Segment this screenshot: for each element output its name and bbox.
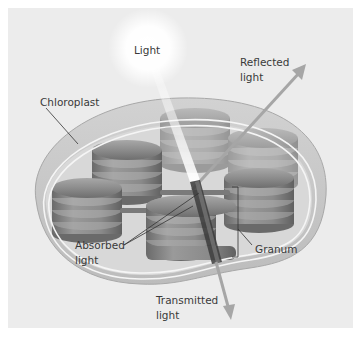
label-reflected-light: Reflected light xyxy=(240,55,289,85)
transmitted-line1: Transmitted xyxy=(156,293,218,308)
absorbed-line2: light xyxy=(75,253,125,268)
label-transmitted-light: Transmitted light xyxy=(156,293,218,323)
label-light: Light xyxy=(134,43,160,58)
granum-label-text: Granum xyxy=(255,242,297,257)
label-granum: Granum xyxy=(255,242,297,257)
label-absorbed-light: Absorbed light xyxy=(75,238,125,268)
label-chloroplast: Chloroplast xyxy=(40,95,99,110)
chloroplast-diagram xyxy=(0,0,362,339)
chloroplast-label-text: Chloroplast xyxy=(40,95,99,110)
absorbed-line1: Absorbed xyxy=(75,238,125,253)
transmitted-line2: light xyxy=(156,308,218,323)
reflected-line2: light xyxy=(240,70,289,85)
reflected-line1: Reflected xyxy=(240,55,289,70)
light-label-text: Light xyxy=(134,43,160,58)
